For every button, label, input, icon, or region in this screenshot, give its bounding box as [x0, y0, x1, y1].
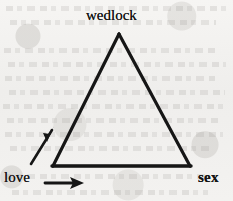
- scanned-page: wedlock love sex: [0, 0, 233, 201]
- triangle-right-edge: [119, 34, 190, 166]
- vertex-label-sex: sex: [198, 170, 219, 185]
- triangle-left-edge: [53, 34, 119, 166]
- vertex-label-wedlock: wedlock: [86, 8, 137, 23]
- vertex-label-love: love: [4, 170, 30, 185]
